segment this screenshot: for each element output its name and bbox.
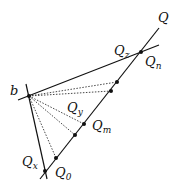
point-q0	[43, 169, 47, 173]
diagram-canvas: Q b Qz Qn Qy Qm Qx Q0	[0, 0, 175, 196]
point-q-d	[54, 156, 58, 160]
point-q-a	[115, 80, 119, 84]
line-b-qz	[18, 45, 159, 100]
label-qx: Qx	[22, 154, 38, 171]
label-qy: Qy	[67, 100, 84, 117]
label-q0: Q0	[55, 165, 72, 182]
point-qm	[82, 122, 86, 126]
points	[27, 50, 143, 173]
label-qm: Qm	[92, 118, 111, 135]
label-q: Q	[158, 10, 169, 25]
label-b: b	[10, 83, 18, 98]
point-qz	[139, 50, 143, 54]
dotted-rays	[29, 82, 117, 158]
point-q-c	[73, 133, 77, 137]
label-qz: Qz	[114, 43, 130, 60]
label-qn: Qn	[145, 54, 162, 71]
point-q-b	[109, 89, 113, 93]
point-b	[27, 94, 31, 98]
